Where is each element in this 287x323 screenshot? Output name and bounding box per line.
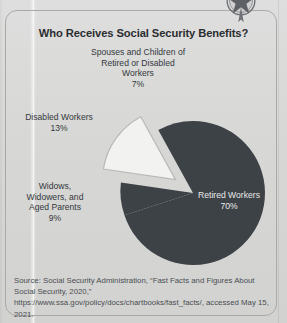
pie-slice-disabled-workers-group bbox=[103, 117, 175, 180]
pie-label-spouses-children: Spouses and Children of Retired or Disab… bbox=[63, 47, 213, 89]
source-citation: Source: Social Security Administration, … bbox=[14, 275, 272, 320]
chart-content: Who Receives Social Security Benefits? S… bbox=[0, 0, 287, 323]
pie-slice-disabled-workers bbox=[103, 117, 175, 180]
pie-label-widows: Widows, Widowers, and Aged Parents 9% bbox=[6, 181, 104, 223]
pie-label-disabled-workers: Disabled Workers 13% bbox=[8, 112, 110, 133]
pie-label-retired-workers: Retired Workers 70% bbox=[183, 190, 275, 211]
